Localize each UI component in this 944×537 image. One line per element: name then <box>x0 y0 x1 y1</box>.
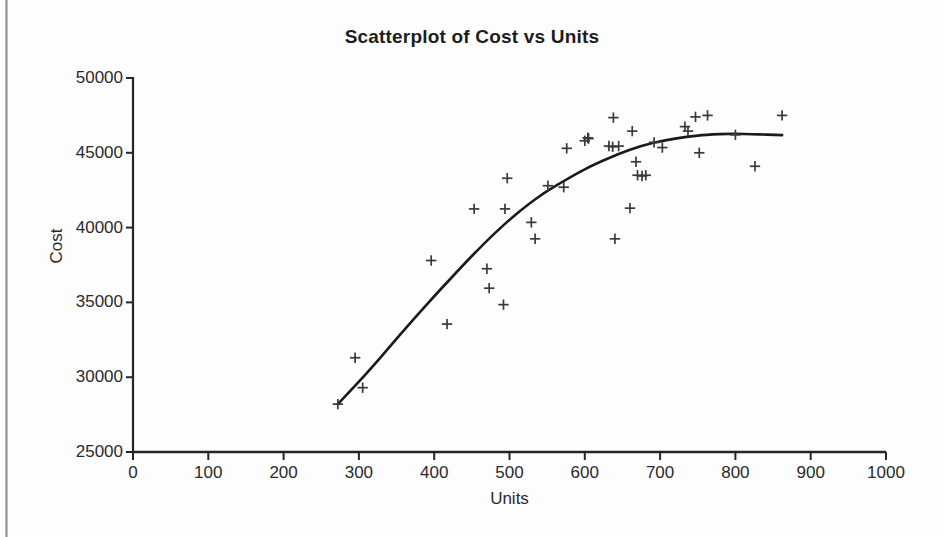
data-point-marker <box>750 161 760 171</box>
scanned-page: Scatterplot of Cost vs Units Cost Units … <box>0 0 944 537</box>
y-tick-label: 30000 <box>37 368 123 385</box>
data-point-marker <box>530 234 540 244</box>
data-point-marker <box>649 137 659 147</box>
data-point-marker <box>610 234 620 244</box>
data-points <box>333 110 788 409</box>
data-point-marker <box>702 110 712 120</box>
data-point-marker <box>777 110 787 120</box>
x-tick-label: 700 <box>625 464 695 481</box>
plot-canvas <box>0 0 944 537</box>
data-point-marker <box>357 382 367 392</box>
data-point-marker <box>627 126 637 136</box>
x-tick-label: 1000 <box>851 464 921 481</box>
data-point-marker <box>502 173 512 183</box>
x-tick-label: 400 <box>399 464 469 481</box>
x-tick-label: 600 <box>550 464 620 481</box>
x-tick-label: 500 <box>475 464 545 481</box>
data-point-marker <box>657 142 667 152</box>
data-point-marker <box>625 203 635 213</box>
data-point-marker <box>482 264 492 274</box>
data-point-marker <box>526 217 536 227</box>
x-tick-label: 0 <box>98 464 168 481</box>
x-tick-label: 800 <box>700 464 770 481</box>
fit-curve <box>338 134 782 404</box>
x-tick-label: 100 <box>173 464 243 481</box>
x-tick-label: 900 <box>776 464 846 481</box>
data-point-marker <box>631 157 641 167</box>
data-point-marker <box>562 143 572 153</box>
y-tick-label: 45000 <box>37 144 123 161</box>
data-point-marker <box>730 130 740 140</box>
y-tick-label: 40000 <box>37 219 123 236</box>
x-tick-label: 300 <box>324 464 394 481</box>
data-point-marker <box>426 255 436 265</box>
x-tick-label: 200 <box>249 464 319 481</box>
data-point-marker <box>613 141 623 151</box>
data-point-marker <box>469 204 479 214</box>
data-point-marker <box>608 112 618 122</box>
y-tick-label: 35000 <box>37 293 123 310</box>
data-point-marker <box>442 319 452 329</box>
y-tick-label: 25000 <box>37 443 123 460</box>
y-tick-label: 50000 <box>37 69 123 86</box>
data-point-marker <box>690 112 700 122</box>
data-point-marker <box>500 204 510 214</box>
data-point-marker <box>694 148 704 158</box>
fit-curve-path <box>338 134 782 404</box>
data-point-marker <box>498 299 508 309</box>
data-point-marker <box>350 353 360 363</box>
scatterplot-figure: Scatterplot of Cost vs Units Cost Units … <box>0 0 944 537</box>
data-point-marker <box>484 283 494 293</box>
